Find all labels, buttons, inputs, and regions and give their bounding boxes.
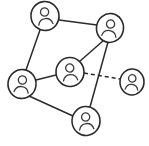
- node-n6[interactable]: [119, 68, 145, 96]
- social-network-diagram: [0, 0, 149, 146]
